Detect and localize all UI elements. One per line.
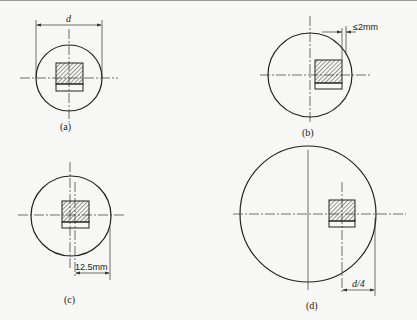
specimen-hatched (62, 201, 89, 222)
dimension-label-quarter-d: d/4 (352, 278, 365, 289)
specimen-strip (315, 83, 342, 89)
dimension-label-d: d (66, 13, 72, 24)
diagram-canvas: d (a) ≤2mm (b) 12.5mm (c) (0, 0, 417, 320)
specimen-hatched (56, 63, 83, 84)
specimen-hatched (315, 60, 342, 83)
dimension-label-max-offset: ≤2mm (353, 22, 378, 32)
caption-c: (c) (64, 294, 75, 306)
dimension-label-offset: 12.5mm (75, 262, 108, 272)
caption-a: (a) (60, 121, 71, 133)
panel-b: ≤2mm (b) (260, 16, 378, 139)
specimen-strip (62, 222, 89, 228)
panel-d: d/4 (d) (233, 146, 406, 312)
specimen-position-diagram: d (a) ≤2mm (b) 12.5mm (c) (0, 0, 417, 320)
panel-c: 12.5mm (c) (18, 162, 126, 306)
specimen-hatched (329, 200, 355, 221)
caption-d: (d) (306, 300, 318, 312)
caption-b: (b) (302, 127, 314, 139)
specimen-strip (56, 84, 83, 91)
panel-a: d (a) (20, 13, 118, 133)
